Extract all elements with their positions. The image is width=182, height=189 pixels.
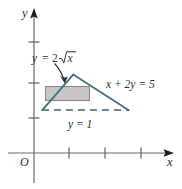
y-axis-label: y bbox=[20, 6, 28, 20]
horizontal-line-label: y = 1 bbox=[67, 118, 92, 131]
curve-label-radicand: x bbox=[67, 52, 74, 64]
curve-label-coefficient: 2 bbox=[52, 52, 58, 64]
curve-equation-label: y = 2 x bbox=[31, 52, 76, 65]
origin-label: O bbox=[20, 155, 29, 169]
x-axis-label: x bbox=[166, 155, 173, 169]
annotation-arrow-shaft bbox=[55, 64, 64, 79]
coordinate-plane-diagram: y x O y = 2 x x + 2y = 5 y = 1 bbox=[0, 0, 182, 189]
curve-label-y: y bbox=[31, 52, 38, 65]
line-equation-label: x + 2y = 5 bbox=[105, 78, 155, 91]
figure-container: y x O y = 2 x x + 2y = 5 y = 1 bbox=[0, 0, 182, 189]
curve-label-equals: = bbox=[42, 52, 49, 64]
